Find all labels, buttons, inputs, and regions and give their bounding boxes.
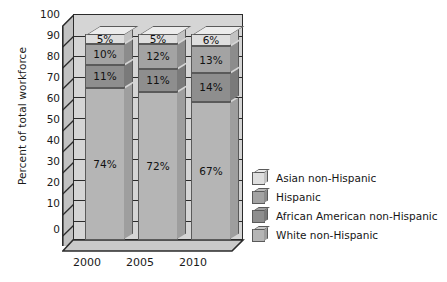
y-tick-20: 20 bbox=[26, 177, 60, 187]
y-tick-60: 60 bbox=[26, 93, 60, 103]
bar-2005-label-asian: 5% bbox=[150, 34, 167, 45]
legend-item-white: White non-Hispanic bbox=[249, 227, 447, 246]
bar-2010-seg-white-side bbox=[230, 97, 239, 239]
chart-root: Percent of total workforce 100 90 80 70 … bbox=[0, 0, 447, 282]
x-tick-2005: 2005 bbox=[110, 256, 170, 269]
bar-2005-seg-hispanic: 12% bbox=[138, 44, 178, 69]
legend-swatch-white-icon bbox=[252, 229, 265, 242]
legend-label-african-american: African American non-Hispanic bbox=[276, 210, 438, 223]
plot-area: 74% 11% 10% 5% 72% bbox=[62, 14, 244, 250]
bar-2005-seg-asian: 5% bbox=[138, 34, 178, 44]
bar-2000-seg-white: 74% bbox=[85, 88, 125, 240]
bar-2000-label-african-american: 11% bbox=[93, 71, 116, 82]
bar-2010-label-hispanic: 13% bbox=[199, 55, 222, 66]
y-tick-70: 70 bbox=[26, 72, 60, 82]
y-tick-0: 0 bbox=[26, 224, 60, 234]
y-tick-40: 40 bbox=[26, 135, 60, 145]
legend-swatch-african-american-icon bbox=[252, 210, 265, 223]
y-tick-10: 10 bbox=[26, 198, 60, 208]
bar-2000-label-hispanic: 10% bbox=[93, 49, 116, 60]
x-tick-2000: 2000 bbox=[57, 256, 117, 269]
legend: Asian non-Hispanic Hispanic African Amer… bbox=[249, 170, 447, 246]
legend-item-african-american: African American non-Hispanic bbox=[249, 208, 447, 227]
bar-2010-label-asian: 6% bbox=[203, 35, 220, 46]
y-tick-80: 80 bbox=[26, 51, 60, 61]
bar-2010-seg-asian: 6% bbox=[191, 34, 231, 46]
legend-swatch-hispanic-icon bbox=[252, 191, 265, 204]
bar-2010-seg-white: 67% bbox=[191, 102, 231, 240]
bar-2005-label-hispanic: 12% bbox=[146, 51, 169, 62]
bar-2000-seg-white-side bbox=[124, 83, 133, 239]
bar-2005: 72% 11% 12% 5% bbox=[138, 34, 178, 240]
y-tick-90: 90 bbox=[26, 30, 60, 40]
legend-label-hispanic: Hispanic bbox=[276, 191, 321, 204]
y-axis-tick-labels: 100 90 80 70 60 50 40 30 20 10 0 bbox=[26, 0, 60, 282]
bar-2010-seg-african-american: 14% bbox=[191, 73, 231, 102]
bar-2010-label-african-american: 14% bbox=[199, 82, 222, 93]
legend-swatch-asian-icon bbox=[252, 172, 265, 185]
bar-2005-seg-african-american: 11% bbox=[138, 69, 178, 92]
y-tick-50: 50 bbox=[26, 114, 60, 124]
bar-2005-label-african-american: 11% bbox=[146, 75, 169, 86]
bar-2000: 74% 11% 10% 5% bbox=[85, 34, 125, 240]
y-tick-30: 30 bbox=[26, 156, 60, 166]
bar-2010: 67% 14% 13% 6% bbox=[191, 34, 231, 240]
bar-2005-label-white: 72% bbox=[146, 161, 169, 172]
legend-label-white: White non-Hispanic bbox=[276, 229, 378, 242]
y-tick-100: 100 bbox=[26, 9, 60, 19]
legend-item-asian: Asian non-Hispanic bbox=[249, 170, 447, 189]
legend-item-hispanic: Hispanic bbox=[249, 189, 447, 208]
bar-2010-seg-hispanic: 13% bbox=[191, 46, 231, 73]
bar-2005-seg-white-side bbox=[177, 87, 186, 239]
bar-2000-label-asian: 5% bbox=[97, 34, 114, 45]
legend-label-asian: Asian non-Hispanic bbox=[276, 172, 376, 185]
bar-2010-label-white: 67% bbox=[199, 166, 222, 177]
bar-2000-label-white: 74% bbox=[93, 159, 116, 170]
bar-2005-seg-white: 72% bbox=[138, 92, 178, 240]
x-tick-2010: 2010 bbox=[163, 256, 223, 269]
bar-2000-seg-asian: 5% bbox=[85, 34, 125, 44]
bar-2000-seg-hispanic: 10% bbox=[85, 44, 125, 65]
bar-2000-seg-african-american: 11% bbox=[85, 65, 125, 88]
